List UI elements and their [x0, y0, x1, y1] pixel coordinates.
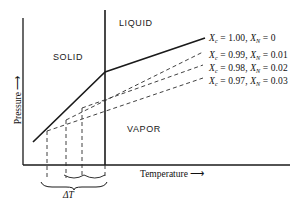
- solvent-value: 0.98: [228, 63, 245, 73]
- brace-delta-t: [41, 182, 107, 190]
- region-label-vapor: VAPOR: [127, 124, 161, 134]
- solvent-value: 0.99: [228, 50, 245, 60]
- solute-subscript: N: [256, 80, 260, 87]
- brace-inner-b: [84, 175, 105, 178]
- vapor-curve-xc-098: [82, 65, 203, 108]
- solvent-subscript: c: [215, 67, 218, 74]
- composition-label-2: Xc = 0.99, XN = 0.01: [209, 50, 288, 60]
- solute-subscript: N: [256, 54, 260, 61]
- region-label-solid: SOLID: [53, 52, 83, 62]
- solvent-value: 0.97: [228, 76, 245, 86]
- composition-label-1: Xc = 1.00, XN = 0: [209, 33, 276, 43]
- solvent-value: 1.00: [228, 33, 245, 43]
- delta-t-annotation: ΔT: [63, 190, 74, 200]
- composition-label-4: Xc = 0.97, XN = 0.03: [209, 76, 288, 86]
- solute-value: 0.03: [271, 76, 288, 86]
- solute-subscript: N: [256, 37, 260, 44]
- solute-subscript: N: [256, 67, 260, 74]
- solvent-subscript: c: [215, 54, 218, 61]
- y-axis-label: Pressure ⟶: [12, 66, 23, 136]
- x-axis-arrow-icon: ⟶: [190, 169, 203, 179]
- solute-value: 0.01: [271, 50, 288, 60]
- brace-inner-a: [64, 175, 84, 178]
- region-label-liquid: LIQUID: [119, 18, 153, 28]
- solute-value: 0.02: [271, 63, 288, 73]
- phase-diagram-figure: LIQUID SOLID VAPOR Xc = 1.00, XN = 0 Xc …: [0, 0, 300, 207]
- solute-value: 0: [271, 33, 276, 43]
- x-axis-label-text: Temperature: [140, 169, 188, 179]
- x-axis-label: Temperature ⟶: [140, 168, 203, 179]
- solvent-subscript: c: [215, 80, 218, 87]
- y-axis-arrow-icon: ⟶: [13, 77, 23, 90]
- y-axis-label-text: Pressure: [13, 92, 23, 124]
- solvent-subscript: c: [215, 37, 218, 44]
- composition-label-3: Xc = 0.98, XN = 0.02: [209, 63, 288, 73]
